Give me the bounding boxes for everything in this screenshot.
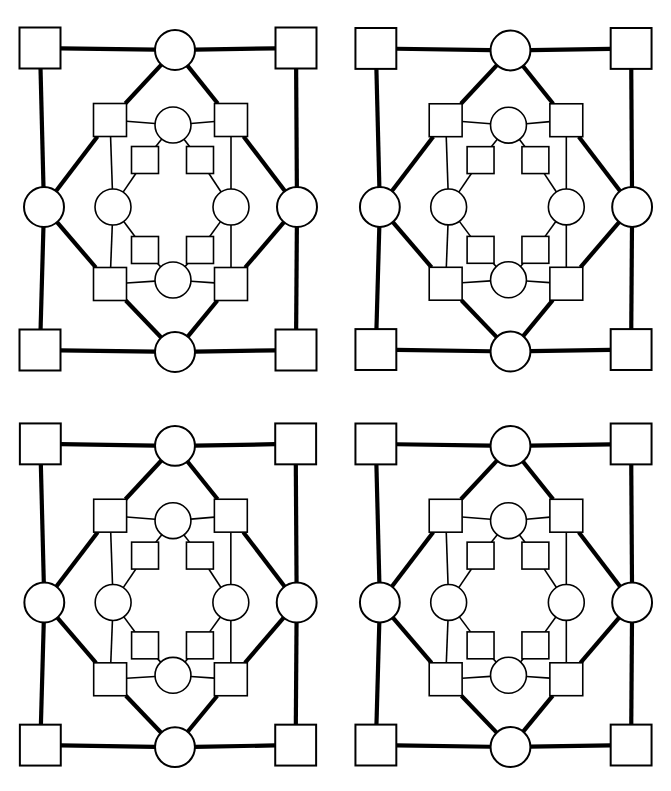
graph-node-square[interactable] <box>94 268 127 301</box>
graph-node-circle[interactable] <box>24 583 64 623</box>
graph-edge <box>530 49 610 50</box>
graph-node-circle[interactable] <box>277 583 317 623</box>
edge-group <box>376 49 632 351</box>
graph-node-square[interactable] <box>355 329 396 370</box>
graph-node-circle[interactable] <box>155 107 191 143</box>
graph-node-circle[interactable] <box>491 503 527 539</box>
graph-node-circle[interactable] <box>155 727 195 767</box>
graph-node-square[interactable] <box>611 424 652 465</box>
graph-node-circle[interactable] <box>491 262 527 298</box>
graph-edge <box>111 225 113 268</box>
graph-edge <box>526 281 549 283</box>
graph-node-circle[interactable] <box>612 187 652 227</box>
graph-node-square[interactable] <box>550 267 583 300</box>
graph-node-square[interactable] <box>94 663 127 696</box>
graph-node-square[interactable] <box>429 104 462 137</box>
graph-diagram <box>336 396 671 791</box>
graph-node-circle[interactable] <box>548 189 584 225</box>
graph-node-square[interactable] <box>550 104 583 137</box>
graph-node-square[interactable] <box>186 632 213 659</box>
graph-node-square[interactable] <box>522 147 549 174</box>
graph-node-square[interactable] <box>214 499 247 532</box>
graph-edge <box>580 618 619 663</box>
graph-node-square[interactable] <box>94 104 127 137</box>
graph-node-square[interactable] <box>187 237 214 264</box>
graph-node-circle[interactable] <box>431 189 467 225</box>
graph-node-square[interactable] <box>186 542 213 569</box>
graph-node-circle[interactable] <box>491 107 527 143</box>
graph-node-square[interactable] <box>429 267 462 300</box>
graph-edge <box>61 350 156 351</box>
graph-node-circle[interactable] <box>491 31 531 71</box>
graph-node-square[interactable] <box>522 542 549 569</box>
graph-node-circle[interactable] <box>277 187 317 227</box>
graph-node-circle[interactable] <box>95 189 131 225</box>
graph-node-square[interactable] <box>429 499 462 532</box>
graph-node-square[interactable] <box>550 499 583 532</box>
graph-node-circle[interactable] <box>548 585 584 621</box>
graph-node-circle[interactable] <box>431 585 467 621</box>
graph-edge <box>245 618 284 663</box>
graph-node-square[interactable] <box>467 632 494 659</box>
graph-edge <box>523 66 553 104</box>
graph-node-square[interactable] <box>355 725 396 766</box>
graph-node-circle[interactable] <box>360 187 400 227</box>
graph-node-circle[interactable] <box>24 187 64 227</box>
graph-node-square[interactable] <box>467 147 494 174</box>
graph-node-square[interactable] <box>550 663 583 696</box>
graph-node-circle[interactable] <box>155 262 191 298</box>
graph-node-circle[interactable] <box>491 426 531 466</box>
graph-node-square[interactable] <box>214 663 247 696</box>
graph-edge <box>526 676 549 678</box>
graph-edge <box>519 535 525 542</box>
graph-node-square[interactable] <box>611 725 652 766</box>
graph-node-square[interactable] <box>355 28 396 69</box>
node-group <box>355 424 652 767</box>
graph-node-square[interactable] <box>94 499 127 532</box>
graph-node-square[interactable] <box>20 28 61 69</box>
graph-node-square[interactable] <box>20 423 61 464</box>
graph-node-circle[interactable] <box>155 426 195 466</box>
graph-node-circle[interactable] <box>360 583 400 623</box>
graph-node-square[interactable] <box>275 725 316 766</box>
graph-diagram <box>0 0 336 396</box>
graph-node-square[interactable] <box>467 236 494 263</box>
graph-node-circle[interactable] <box>155 657 191 693</box>
graph-node-square[interactable] <box>355 424 396 465</box>
graph-edge <box>124 221 135 236</box>
graph-node-square[interactable] <box>467 542 494 569</box>
node-group <box>355 28 652 371</box>
graph-node-square[interactable] <box>215 104 248 137</box>
graph-node-circle[interactable] <box>491 332 531 372</box>
graph-edge <box>631 227 632 329</box>
graph-node-square[interactable] <box>20 725 61 766</box>
graph-node-circle[interactable] <box>155 30 195 70</box>
graph-node-circle[interactable] <box>491 657 527 693</box>
graph-node-circle[interactable] <box>491 727 531 767</box>
graph-node-square[interactable] <box>132 147 159 174</box>
graph-edge <box>296 464 297 582</box>
graph-edge <box>579 532 620 586</box>
graph-node-square[interactable] <box>522 236 549 263</box>
graph-node-circle[interactable] <box>213 189 249 225</box>
graph-node-square[interactable] <box>215 268 248 301</box>
graph-node-circle[interactable] <box>155 503 191 539</box>
graph-node-square[interactable] <box>522 632 549 659</box>
graph-node-square[interactable] <box>276 330 317 371</box>
graph-edge <box>530 444 610 445</box>
graph-node-circle[interactable] <box>213 585 249 621</box>
graph-node-square[interactable] <box>429 663 462 696</box>
graph-node-square[interactable] <box>611 329 652 370</box>
graph-node-circle[interactable] <box>155 332 195 372</box>
graph-node-square[interactable] <box>276 28 317 69</box>
graph-node-square[interactable] <box>132 632 159 659</box>
graph-node-circle[interactable] <box>95 585 131 621</box>
graph-node-circle[interactable] <box>612 583 652 623</box>
graph-node-square[interactable] <box>611 28 652 69</box>
graph-node-square[interactable] <box>20 330 61 371</box>
graph-node-square[interactable] <box>132 237 159 264</box>
graph-node-square[interactable] <box>132 542 159 569</box>
graph-node-square[interactable] <box>275 423 316 464</box>
graph-edge <box>41 69 44 188</box>
graph-node-square[interactable] <box>187 147 214 174</box>
